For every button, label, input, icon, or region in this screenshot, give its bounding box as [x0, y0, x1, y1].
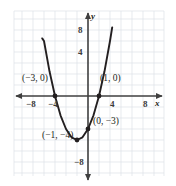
- graph-figure: −8 −4 4 8 8 4 −8 x y (−3, 0) (1, 0) (0, …: [0, 0, 176, 186]
- y-tick-label-minus8: −8: [74, 158, 84, 167]
- point-root-right: [97, 94, 102, 99]
- x-axis-name: x: [155, 99, 160, 108]
- x-tick-label-8: 8: [143, 100, 148, 109]
- x-tick-label-minus8: −8: [26, 100, 36, 109]
- x-tick-label-minus4: −4: [48, 100, 58, 109]
- y-axis-name: y: [91, 12, 95, 21]
- point-y-intercept: [86, 127, 91, 132]
- annotation-y-intercept: (0, −3): [93, 117, 119, 127]
- annotation-root-right: (1, 0): [100, 74, 121, 84]
- x-tick-label-4: 4: [110, 100, 115, 109]
- coordinate-plane: [0, 0, 176, 186]
- annotation-root-left: (−3, 0): [22, 74, 48, 84]
- annotation-vertex: (−1, −4): [42, 131, 73, 141]
- y-tick-label-8: 8: [78, 26, 83, 35]
- point-vertex: [75, 138, 80, 143]
- point-root-left: [53, 94, 58, 99]
- y-tick-label-4: 4: [78, 48, 83, 57]
